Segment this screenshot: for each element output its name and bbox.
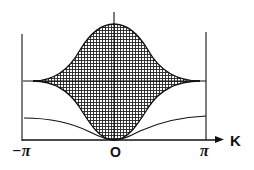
tick-label-origin: O	[110, 145, 121, 159]
band-diagram	[0, 0, 254, 170]
tick-label-pi: π	[200, 143, 209, 159]
tick-label-minus-pi: −π	[12, 143, 30, 159]
k-axis-arrow-icon	[215, 136, 224, 143]
x-axis-label: K	[230, 133, 241, 148]
